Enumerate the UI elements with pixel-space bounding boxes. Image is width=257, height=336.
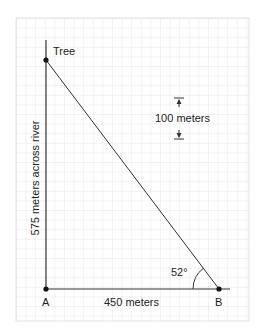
point-b-label: B: [215, 296, 222, 308]
horizontal-side-label: 450 meters: [104, 296, 160, 308]
vertical-side-label: 575 meters across river: [29, 120, 41, 235]
angle-label: 52°: [171, 266, 188, 278]
point-b: [216, 286, 221, 291]
point-a-label: A: [42, 296, 50, 308]
scale-label: 100 meters: [155, 112, 211, 124]
graph-paper-grid: [16, 18, 249, 321]
tree-point: [43, 57, 48, 62]
triangle-diagram: Tree A B 450 meters 575 meters across ri…: [0, 0, 257, 336]
tree-label: Tree: [53, 45, 75, 57]
point-a: [43, 286, 48, 291]
